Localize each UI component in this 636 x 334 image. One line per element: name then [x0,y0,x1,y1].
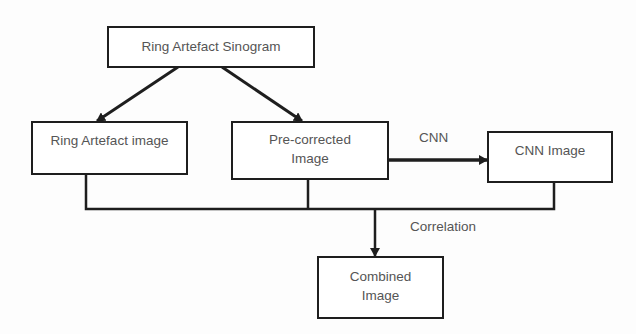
arrow-sinogram-to-ring-image [97,67,178,121]
arrow-sinogram-to-precorrected [222,67,302,121]
flowchart: Ring Artefact Sinogram Ring Artefact ima… [0,0,636,334]
node-ring-artefact-image: Ring Artefact image [31,121,188,175]
node-combined-image: Combined Image [317,256,444,319]
node-label: Ring Artefact Sinogram [109,37,313,56]
node-ring-artefact-sinogram: Ring Artefact Sinogram [107,26,315,68]
node-label-line2: Image [319,286,442,305]
edge-label-cnn: CNN [419,130,448,145]
node-cnn-image: CNN Image [487,131,613,183]
node-label: CNN Image [489,141,611,160]
node-label-line1: Combined [319,267,442,286]
node-label: Ring Artefact image [33,131,186,150]
node-label-line1: Pre-corrected [233,130,387,149]
edge-label-correlation: Correlation [410,219,476,234]
node-pre-corrected-image: Pre-corrected Image [231,121,389,180]
node-label-line2: Image [233,149,387,168]
